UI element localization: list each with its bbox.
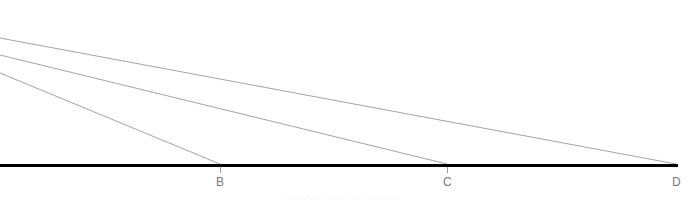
figure-caption-clipped: · ·· · ·· ·· ···· ·· ·· ·· ···· ··· ····… [0,196,690,202]
ray-group [0,38,676,164]
ray-to-b-line [0,73,220,164]
ray-to-c-line [0,55,447,164]
point-label-b: B [216,176,224,188]
point-label-c: C [443,176,452,188]
figure-canvas [0,0,690,202]
geometry-figure: B C D · ·· · ·· ·· ···· ·· ·· ·· ···· ··… [0,0,690,202]
point-label-d: D [672,176,681,188]
ray-to-d-line [0,38,676,164]
